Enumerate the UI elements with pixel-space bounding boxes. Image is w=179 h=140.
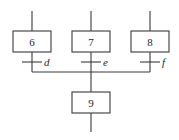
transition-condition-d: d [44,56,50,68]
step-6-label: 6 [29,36,35,48]
transition-condition-f: f [162,56,167,68]
step-6: 6 [13,31,51,52]
step-7-label: 7 [88,36,94,48]
step-8: 8 [131,31,169,52]
step-9-label: 9 [88,97,94,109]
step-9: 9 [72,92,110,113]
grafcet-diagram: 6 7 8 d e f 9 [0,0,179,140]
step-7: 7 [72,31,110,52]
step-8-label: 8 [147,36,153,48]
transition-condition-e: e [103,56,108,68]
